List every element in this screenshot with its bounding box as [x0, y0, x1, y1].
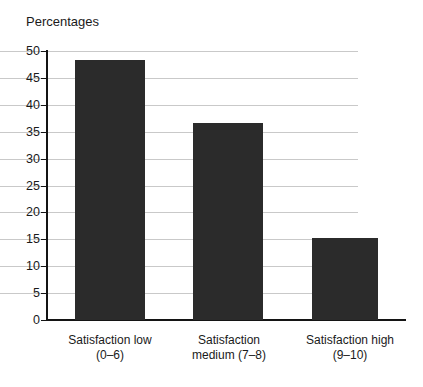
bar — [193, 123, 263, 320]
bar — [312, 238, 378, 320]
x-tick-label: Satisfaction low(0–6) — [48, 333, 172, 362]
y-tick-label: 0 — [33, 314, 40, 326]
y-tick-label: 30 — [26, 153, 40, 165]
x-tick-label: Satisfactionmedium (7–8) — [168, 333, 290, 362]
bar — [75, 60, 145, 320]
y-tick-label: 25 — [26, 180, 40, 192]
y-tick-label: 10 — [26, 260, 40, 272]
y-tick-label: 15 — [26, 233, 40, 245]
chart-title: Percentages — [26, 14, 99, 30]
y-tick-label: 20 — [26, 206, 40, 218]
y-tick-label: 50 — [26, 45, 40, 57]
plot-area — [48, 51, 406, 320]
y-tick-label: 35 — [26, 126, 40, 138]
x-tick-label: Satisfaction high(9–10) — [288, 333, 412, 362]
y-tick-label: 45 — [26, 72, 40, 84]
bar-chart: Percentages 05101520253035404550 Satisfa… — [0, 0, 423, 387]
y-tick-label: 5 — [33, 287, 40, 299]
y-tick-label: 40 — [26, 99, 40, 111]
